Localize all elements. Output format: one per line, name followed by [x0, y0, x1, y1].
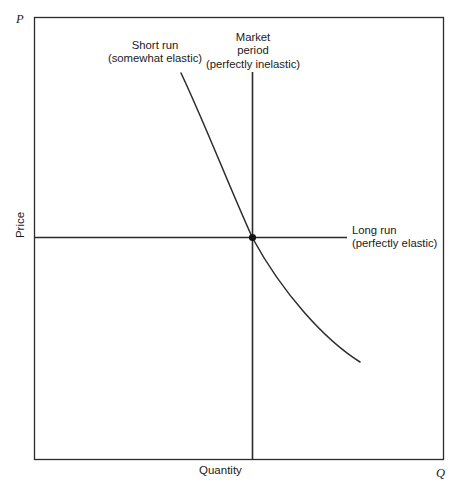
market-period-annotation-line-3: (perfectly inelastic)	[194, 58, 312, 71]
y-axis-symbol: P	[16, 12, 24, 27]
market-period-annotation-line-2: period	[194, 44, 312, 57]
x-axis-label: Quantity	[199, 464, 242, 476]
market-period-annotation: Market period (perfectly inelastic)	[194, 31, 312, 71]
long-run-annotation: Long run (perfectly elastic)	[352, 224, 456, 251]
market-period-annotation-line-1: Market	[194, 31, 312, 44]
long-run-annotation-line-2: (perfectly elastic)	[352, 237, 456, 250]
x-axis-symbol: Q	[436, 466, 445, 481]
equilibrium-point-marker	[249, 234, 256, 241]
y-axis-label: Price	[14, 199, 26, 251]
long-run-annotation-line-1: Long run	[352, 224, 456, 237]
supply-elasticity-figure: P Q Price Quantity Short run (somewhat e…	[0, 0, 457, 491]
short-run-supply-curve	[181, 73, 360, 362]
